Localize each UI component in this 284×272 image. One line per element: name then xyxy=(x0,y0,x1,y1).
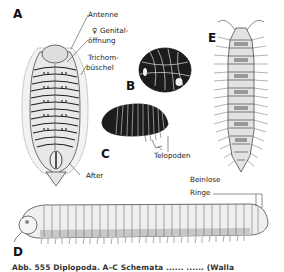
label-trichom-2: büschel xyxy=(86,64,114,72)
label-telopoden: Telopoden xyxy=(154,152,190,160)
panel-label-d: D xyxy=(13,246,23,258)
label-after: After xyxy=(86,172,103,180)
illustration-e xyxy=(214,20,268,172)
label-ringe: Ringe xyxy=(190,189,211,197)
label-genital-symbol: ♀ xyxy=(92,27,97,35)
label-trichom-1: Trichom- xyxy=(88,54,119,62)
panel-label-a: A xyxy=(13,8,22,20)
panel-label-b: B xyxy=(126,80,135,92)
illustration-d xyxy=(14,194,268,244)
label-antenne: Antenne xyxy=(88,11,118,19)
figure-caption: Abb. 555 Diplopoda. A–C Schemata ...... … xyxy=(12,263,234,272)
label-beinlose: Beinlose xyxy=(190,176,220,184)
illustration-a xyxy=(22,15,88,186)
illustration-c xyxy=(102,104,168,152)
panel-label-e: E xyxy=(208,32,216,44)
label-genital-2: öffnung xyxy=(88,37,116,45)
label-genital-1: Genital- xyxy=(100,27,128,35)
panel-label-c: C xyxy=(101,148,110,160)
illustration-b xyxy=(139,48,191,92)
